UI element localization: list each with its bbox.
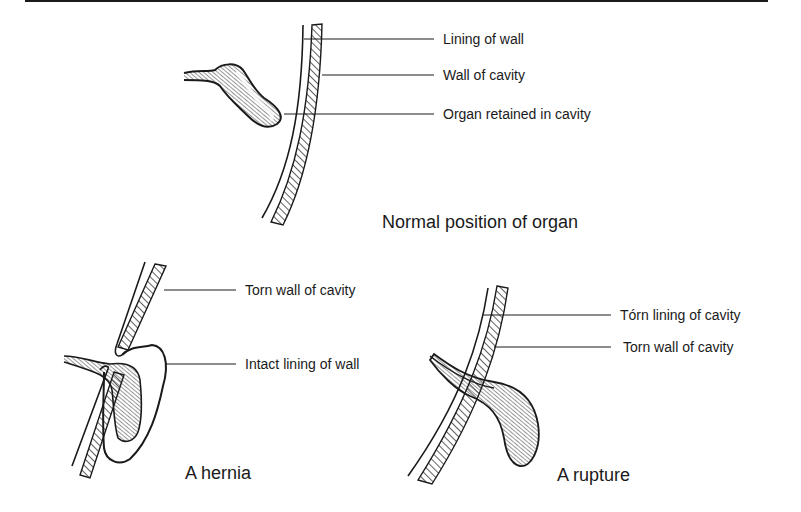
caption-normal: Normal position of organ (382, 212, 578, 232)
caption-rupture: A rupture (557, 465, 630, 485)
label-lining-of-wall: Lining of wall (443, 31, 524, 47)
normal-organ (184, 64, 281, 126)
label-torn-lining: Tórn lining of cavity (620, 307, 741, 323)
label-torn-wall-hernia: Torn wall of cavity (245, 282, 355, 298)
caption-hernia: A hernia (185, 463, 251, 483)
label-torn-wall-rupture: Torn wall of cavity (623, 339, 733, 355)
label-intact-lining: Intact lining of wall (245, 356, 359, 372)
label-organ-retained: Organ retained in cavity (443, 106, 591, 122)
label-wall-of-cavity: Wall of cavity (443, 67, 525, 83)
diagram-artwork (0, 0, 801, 512)
